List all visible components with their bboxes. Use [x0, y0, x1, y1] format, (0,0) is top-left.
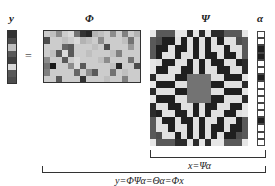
psi-cell: [242, 139, 248, 146]
phi-cell: [134, 76, 140, 82]
alpha-cell: [257, 67, 265, 74]
alpha-cell: [257, 60, 265, 67]
phi-matrix: [43, 30, 141, 83]
phi-label: Φ: [85, 12, 94, 24]
alpha-cell: [257, 96, 265, 103]
alpha-cell: [257, 89, 265, 96]
alpha-cell: [257, 81, 265, 88]
psi-cell: [242, 74, 248, 81]
alpha-cell: [257, 31, 265, 38]
alpha-cell: [257, 117, 265, 124]
alpha-cell: [257, 124, 265, 131]
psi-cell: [242, 117, 248, 124]
psi-cell: [242, 81, 248, 88]
psi-label: Ψ: [201, 12, 210, 24]
psi-cell: [242, 103, 248, 110]
alpha-vector: [257, 31, 265, 146]
alpha-cell: [257, 110, 265, 117]
alpha-cell: [257, 53, 265, 60]
alpha-cell: [257, 45, 265, 52]
alpha-cell: [257, 38, 265, 45]
alpha-label: α: [257, 12, 263, 24]
y-label: y: [9, 12, 14, 24]
psi-cell: [242, 132, 248, 139]
alpha-cell: [257, 74, 265, 81]
outer-equation: y=ΦΨα=Θα=Φx: [115, 175, 184, 186]
psi-cell: [242, 45, 248, 52]
psi-cell: [242, 124, 248, 131]
alpha-cell: [257, 139, 265, 146]
psi-matrix: [150, 30, 248, 146]
psi-cell: [242, 37, 248, 44]
psi-cell: [242, 52, 248, 59]
alpha-cell: [257, 103, 265, 110]
y-vector: [7, 30, 17, 84]
psi-cell: [242, 110, 248, 117]
psi-cell: [242, 30, 248, 37]
y-cell: [8, 77, 16, 84]
psi-cell: [242, 95, 248, 102]
psi-cell: [242, 88, 248, 95]
psi-cell: [242, 59, 248, 66]
inner-bracket: [150, 150, 266, 158]
psi-cell: [242, 66, 248, 73]
equals-sign: =: [25, 49, 32, 64]
alpha-cell: [257, 132, 265, 139]
outer-bracket: [42, 166, 266, 173]
